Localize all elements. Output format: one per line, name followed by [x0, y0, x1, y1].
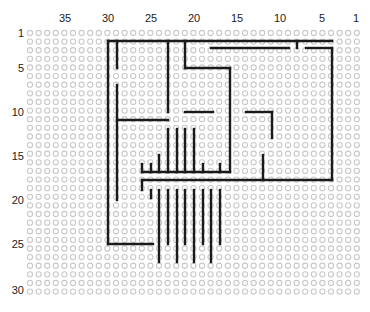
board-hole — [62, 74, 67, 79]
board-hole — [285, 186, 290, 191]
board-hole — [70, 229, 75, 234]
board-hole — [199, 30, 204, 35]
board-hole — [294, 229, 299, 234]
board-hole — [156, 74, 161, 79]
board-hole — [346, 289, 351, 294]
board-hole — [62, 99, 67, 104]
board-hole — [346, 65, 351, 70]
board-hole — [242, 220, 247, 225]
board-hole — [156, 30, 161, 35]
board-hole — [88, 134, 93, 139]
board-hole — [354, 186, 359, 191]
board-hole — [122, 160, 127, 165]
board-hole — [88, 82, 93, 87]
board-hole — [96, 48, 101, 53]
board-hole — [354, 160, 359, 165]
board-hole — [251, 186, 256, 191]
board-hole — [122, 82, 127, 87]
board-hole — [27, 211, 32, 216]
board-hole — [311, 134, 316, 139]
board-hole — [234, 151, 239, 156]
board-hole — [96, 108, 101, 113]
board-hole — [139, 134, 144, 139]
board-hole — [251, 82, 256, 87]
board-hole — [277, 74, 282, 79]
board-hole — [217, 142, 222, 147]
board-hole — [27, 194, 32, 199]
board-hole — [303, 74, 308, 79]
board-hole — [285, 246, 290, 251]
board-hole — [148, 263, 153, 268]
board-hole — [79, 91, 84, 96]
board-hole — [217, 108, 222, 113]
board-hole — [337, 117, 342, 122]
board-hole — [294, 186, 299, 191]
board-hole — [88, 99, 93, 104]
board-hole — [79, 263, 84, 268]
board-hole — [122, 125, 127, 130]
board-hole — [303, 211, 308, 216]
board-hole — [96, 56, 101, 61]
board-hole — [311, 194, 316, 199]
board-hole — [346, 48, 351, 53]
board-hole — [294, 203, 299, 208]
board-hole — [328, 246, 333, 251]
board-hole — [105, 255, 110, 260]
board-hole — [131, 237, 136, 242]
board-hole — [242, 237, 247, 242]
board-hole — [303, 272, 308, 277]
board-hole — [62, 229, 67, 234]
board-hole — [311, 142, 316, 147]
board-hole — [303, 186, 308, 191]
board-hole — [242, 74, 247, 79]
board-hole — [156, 91, 161, 96]
board-hole — [182, 263, 187, 268]
board-hole — [165, 255, 170, 260]
board-hole — [260, 289, 265, 294]
board-hole — [53, 246, 58, 251]
board-hole — [320, 211, 325, 216]
board-hole — [217, 151, 222, 156]
board-hole — [79, 272, 84, 277]
board-hole — [131, 220, 136, 225]
board-hole — [45, 30, 50, 35]
board-hole — [139, 56, 144, 61]
board-hole — [234, 99, 239, 104]
board-hole — [27, 74, 32, 79]
board-hole — [320, 151, 325, 156]
board-hole — [36, 272, 41, 277]
board-hole — [79, 151, 84, 156]
board-hole — [268, 246, 273, 251]
board-hole — [88, 211, 93, 216]
board-hole — [217, 30, 222, 35]
board-hole — [208, 160, 213, 165]
board-hole — [122, 237, 127, 242]
board-hole — [70, 246, 75, 251]
board-hole — [268, 220, 273, 225]
board-hole — [96, 272, 101, 277]
board-hole — [234, 211, 239, 216]
board-hole — [131, 263, 136, 268]
board-hole — [62, 56, 67, 61]
board-hole — [27, 186, 32, 191]
board-hole — [242, 211, 247, 216]
board-hole — [105, 280, 110, 285]
board-hole — [337, 272, 342, 277]
board-hole — [328, 255, 333, 260]
board-hole — [191, 263, 196, 268]
board-hole — [131, 56, 136, 61]
board-hole — [277, 237, 282, 242]
board-hole — [88, 289, 93, 294]
board-hole — [113, 74, 118, 79]
board-hole — [36, 48, 41, 53]
board-hole — [260, 117, 265, 122]
board-hole — [242, 229, 247, 234]
board-hole — [294, 134, 299, 139]
board-hole — [337, 142, 342, 147]
board-hole — [217, 91, 222, 96]
board-hole — [251, 229, 256, 234]
board-hole — [285, 229, 290, 234]
board-hole — [285, 255, 290, 260]
board-hole — [242, 289, 247, 294]
board-hole — [53, 272, 58, 277]
